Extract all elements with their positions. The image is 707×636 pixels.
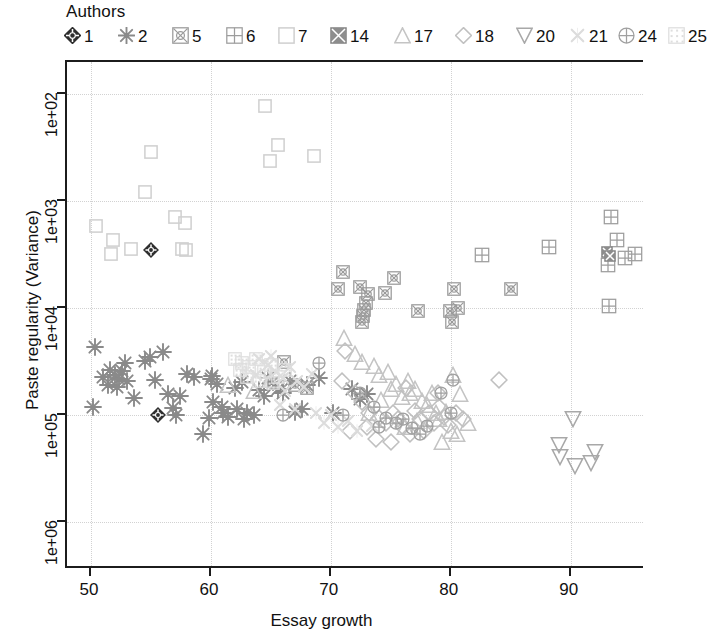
- data-point: [340, 414, 355, 429]
- gridline-vertical: [571, 62, 572, 566]
- data-point: [109, 379, 126, 396]
- data-point: [86, 338, 103, 355]
- legend-item-6[interactable]: 6: [226, 24, 255, 48]
- data-point: [361, 287, 375, 301]
- data-point: [270, 380, 287, 397]
- data-point: [106, 366, 123, 383]
- data-point: [331, 282, 345, 296]
- data-point: [249, 367, 264, 382]
- legend-item-2[interactable]: 2: [118, 24, 147, 48]
- diamond-open-icon: [455, 27, 474, 46]
- data-point: [413, 392, 430, 409]
- data-point: [278, 363, 292, 377]
- data-point: [275, 370, 290, 385]
- data-point: [411, 304, 425, 318]
- data-point: [602, 298, 617, 313]
- data-point: [138, 185, 152, 199]
- data-point: [382, 434, 399, 451]
- data-point: [373, 391, 390, 408]
- legend-item-7[interactable]: 7: [278, 24, 307, 48]
- data-point: [446, 373, 460, 387]
- legend-item-14[interactable]: 14: [330, 24, 369, 48]
- data-point: [490, 371, 507, 388]
- data-point: [144, 145, 158, 159]
- data-point: [628, 246, 643, 261]
- legend-label: 20: [536, 27, 555, 46]
- data-point: [274, 384, 291, 401]
- data-point: [604, 209, 619, 224]
- data-point: [344, 380, 361, 397]
- legend-item-1[interactable]: 1: [64, 24, 93, 48]
- data-point: [416, 422, 433, 439]
- data-point: [263, 348, 278, 363]
- data-point: [164, 399, 181, 416]
- data-point: [401, 384, 418, 401]
- legend-item-18[interactable]: 18: [455, 24, 494, 48]
- gridline-vertical: [211, 62, 212, 566]
- data-point: [617, 250, 632, 265]
- gridline-horizontal: [67, 308, 643, 309]
- legend-label: 21: [589, 27, 608, 46]
- data-point: [277, 355, 291, 369]
- square-speckle-icon: [668, 27, 687, 46]
- legend-label: 17: [414, 27, 433, 46]
- data-point: [435, 408, 452, 425]
- data-point: [271, 138, 285, 152]
- legend-item-21[interactable]: 21: [569, 24, 608, 48]
- data-point: [387, 271, 401, 285]
- data-point: [141, 349, 158, 366]
- legend-item-17[interactable]: 17: [394, 24, 433, 48]
- data-point: [286, 404, 303, 421]
- data-point: [168, 210, 182, 224]
- legend-item-20[interactable]: 20: [516, 24, 555, 48]
- data-point: [143, 243, 158, 258]
- x-axis-tick-label: 70: [309, 580, 349, 600]
- triangle-up-icon: [394, 27, 413, 46]
- data-point: [242, 360, 256, 374]
- asterisk-icon: [118, 27, 137, 46]
- data-point: [94, 368, 111, 385]
- data-point: [261, 357, 276, 372]
- data-point: [411, 411, 428, 428]
- data-point: [445, 366, 462, 383]
- legend-title: Authors: [66, 2, 125, 22]
- x-axis-tick: [449, 568, 451, 576]
- data-point: [255, 388, 272, 405]
- data-point: [355, 315, 369, 329]
- data-point: [398, 379, 415, 396]
- data-point: [205, 394, 222, 411]
- data-point: [304, 366, 319, 381]
- square-x-circle-icon: [172, 27, 191, 46]
- data-point: [385, 405, 402, 422]
- data-point: [250, 381, 267, 398]
- data-point: [104, 247, 118, 261]
- data-point: [99, 376, 116, 393]
- legend-label: 5: [192, 27, 201, 46]
- data-point: [186, 368, 203, 385]
- data-point: [459, 415, 476, 432]
- data-point: [365, 358, 382, 375]
- data-point: [437, 403, 454, 420]
- data-point: [378, 286, 392, 300]
- data-point: [179, 243, 193, 257]
- data-point: [240, 370, 254, 384]
- data-point: [249, 352, 263, 366]
- legend-item-24[interactable]: 24: [618, 24, 657, 48]
- data-point: [368, 431, 385, 448]
- data-point: [353, 354, 370, 371]
- data-point: [504, 282, 518, 296]
- data-point: [418, 396, 435, 413]
- data-point: [429, 384, 446, 401]
- y-axis-tick-label: 1e+02: [43, 92, 61, 137]
- data-point: [336, 265, 350, 279]
- data-point: [425, 415, 442, 432]
- data-point: [445, 315, 459, 329]
- x-axis-tick: [329, 568, 331, 576]
- legend-item-25[interactable]: 25: [668, 24, 707, 48]
- data-point: [114, 363, 131, 380]
- gridline-horizontal: [67, 415, 643, 416]
- gridline-horizontal: [67, 201, 643, 202]
- data-point: [346, 346, 363, 363]
- data-point: [126, 390, 143, 407]
- legend-item-5[interactable]: 5: [172, 24, 201, 48]
